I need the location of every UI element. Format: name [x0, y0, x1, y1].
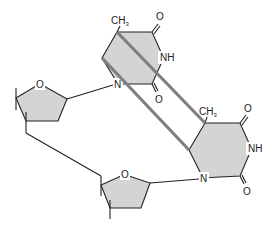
top-pyrimidine-ring [102, 32, 161, 84]
bottom-deoxyribose: O [101, 168, 199, 219]
top-deoxyribose: O [16, 78, 113, 176]
thymine-dimer-diagram: CH3 O NH N O CH3 O NH N O O [0, 0, 277, 232]
bottom-carbonyl-o2-label: O [243, 186, 251, 197]
bottom-glycosidic-bond [150, 179, 199, 183]
top-carbonyl-o-label: O [156, 11, 164, 22]
phosphodiester-link [26, 133, 101, 176]
top-carbonyl-o2-label: O [155, 94, 163, 105]
top-sugar-ring [16, 86, 67, 121]
bottom-nh-label: NH [248, 143, 262, 154]
bottom-carbonyl-o-label: O [244, 103, 252, 114]
bottom-sugar-ring [101, 176, 150, 208]
top-methyl-label: CH3 [111, 15, 129, 27]
top-nh-label: NH [160, 52, 174, 63]
top-thymine-base: CH3 O NH N O [102, 11, 176, 105]
top-glycosidic-bond [67, 85, 113, 99]
top-sugar-o-label: O [36, 79, 44, 90]
bottom-methyl-label: CH3 [199, 106, 217, 118]
bottom-pyrimidine-ring [189, 123, 249, 178]
top-n-label: N [114, 79, 121, 90]
bottom-n-label: N [200, 173, 207, 184]
bottom-sugar-o-label: O [121, 169, 129, 180]
